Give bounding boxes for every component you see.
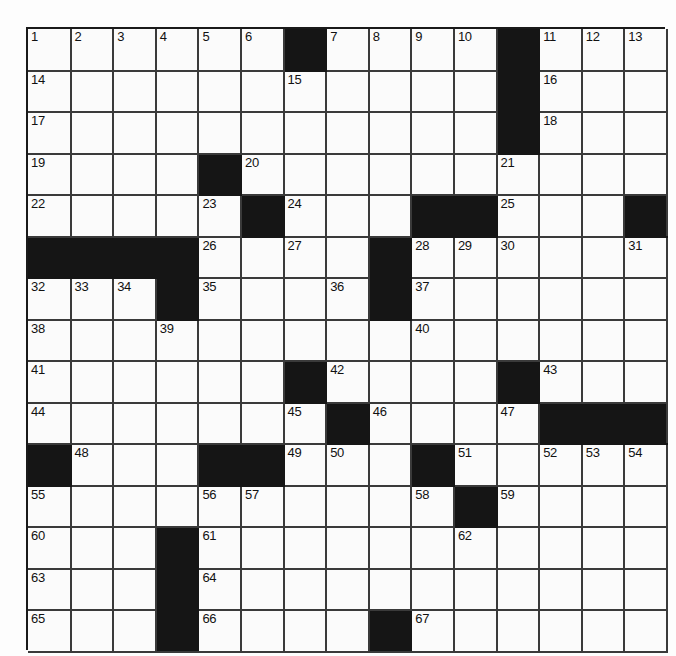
empty-cell[interactable] [326,237,369,279]
numbered-cell[interactable]: 60 [28,527,71,569]
empty-cell[interactable] [284,278,327,320]
numbered-cell[interactable]: 38 [28,320,71,362]
empty-cell[interactable] [71,154,114,196]
empty-cell[interactable] [454,320,497,362]
numbered-cell[interactable]: 6 [241,29,284,71]
empty-cell[interactable] [454,71,497,113]
empty-cell[interactable] [497,444,540,486]
empty-cell[interactable] [369,361,412,403]
empty-cell[interactable] [624,486,667,528]
numbered-cell[interactable]: 41 [28,361,71,403]
empty-cell[interactable] [284,320,327,362]
numbered-cell[interactable]: 5 [198,29,241,71]
empty-cell[interactable] [326,71,369,113]
empty-cell[interactable] [241,278,284,320]
empty-cell[interactable] [241,320,284,362]
numbered-cell[interactable]: 42 [326,361,369,403]
numbered-cell[interactable]: 43 [539,361,582,403]
empty-cell[interactable] [326,195,369,237]
empty-cell[interactable] [113,444,156,486]
numbered-cell[interactable]: 17 [28,112,71,154]
empty-cell[interactable] [241,361,284,403]
empty-cell[interactable] [113,112,156,154]
empty-cell[interactable] [241,527,284,569]
numbered-cell[interactable]: 48 [71,444,114,486]
empty-cell[interactable] [369,154,412,196]
empty-cell[interactable] [113,610,156,652]
empty-cell[interactable] [624,112,667,154]
empty-cell[interactable] [411,154,454,196]
numbered-cell[interactable]: 61 [198,527,241,569]
empty-cell[interactable] [71,320,114,362]
empty-cell[interactable] [582,486,625,528]
empty-cell[interactable] [624,569,667,611]
empty-cell[interactable] [241,237,284,279]
numbered-cell[interactable]: 65 [28,610,71,652]
empty-cell[interactable] [411,527,454,569]
empty-cell[interactable] [113,527,156,569]
empty-cell[interactable] [369,195,412,237]
empty-cell[interactable] [284,610,327,652]
empty-cell[interactable] [284,569,327,611]
numbered-cell[interactable]: 40 [411,320,454,362]
empty-cell[interactable] [454,569,497,611]
empty-cell[interactable] [624,610,667,652]
numbered-cell[interactable]: 44 [28,403,71,445]
empty-cell[interactable] [241,71,284,113]
empty-cell[interactable] [198,71,241,113]
empty-cell[interactable] [284,112,327,154]
empty-cell[interactable] [241,569,284,611]
numbered-cell[interactable]: 37 [411,278,454,320]
numbered-cell[interactable]: 66 [198,610,241,652]
empty-cell[interactable] [71,112,114,154]
empty-cell[interactable] [369,444,412,486]
empty-cell[interactable] [539,610,582,652]
empty-cell[interactable] [411,569,454,611]
empty-cell[interactable] [582,71,625,113]
numbered-cell[interactable]: 47 [497,403,540,445]
numbered-cell[interactable]: 31 [624,237,667,279]
numbered-cell[interactable]: 27 [284,237,327,279]
numbered-cell[interactable]: 19 [28,154,71,196]
empty-cell[interactable] [411,361,454,403]
crossword-grid[interactable]: 1234567891011121314151617181920212223242… [28,29,668,653]
empty-cell[interactable] [369,569,412,611]
empty-cell[interactable] [454,154,497,196]
numbered-cell[interactable]: 51 [454,444,497,486]
numbered-cell[interactable]: 50 [326,444,369,486]
numbered-cell[interactable]: 25 [497,195,540,237]
empty-cell[interactable] [113,195,156,237]
numbered-cell[interactable]: 4 [156,29,199,71]
empty-cell[interactable] [539,527,582,569]
empty-cell[interactable] [326,112,369,154]
numbered-cell[interactable]: 29 [454,237,497,279]
empty-cell[interactable] [326,569,369,611]
empty-cell[interactable] [198,320,241,362]
empty-cell[interactable] [582,195,625,237]
empty-cell[interactable] [454,112,497,154]
numbered-cell[interactable]: 8 [369,29,412,71]
numbered-cell[interactable]: 33 [71,278,114,320]
numbered-cell[interactable]: 63 [28,569,71,611]
empty-cell[interactable] [198,361,241,403]
numbered-cell[interactable]: 30 [497,237,540,279]
empty-cell[interactable] [539,486,582,528]
empty-cell[interactable] [624,154,667,196]
empty-cell[interactable] [454,403,497,445]
empty-cell[interactable] [454,361,497,403]
empty-cell[interactable] [156,444,199,486]
empty-cell[interactable] [369,527,412,569]
empty-cell[interactable] [71,71,114,113]
numbered-cell[interactable]: 23 [198,195,241,237]
numbered-cell[interactable]: 67 [411,610,454,652]
numbered-cell[interactable]: 28 [411,237,454,279]
empty-cell[interactable] [71,403,114,445]
numbered-cell[interactable]: 49 [284,444,327,486]
empty-cell[interactable] [582,154,625,196]
empty-cell[interactable] [113,361,156,403]
empty-cell[interactable] [113,403,156,445]
numbered-cell[interactable]: 13 [624,29,667,71]
empty-cell[interactable] [284,486,327,528]
empty-cell[interactable] [454,610,497,652]
numbered-cell[interactable]: 55 [28,486,71,528]
